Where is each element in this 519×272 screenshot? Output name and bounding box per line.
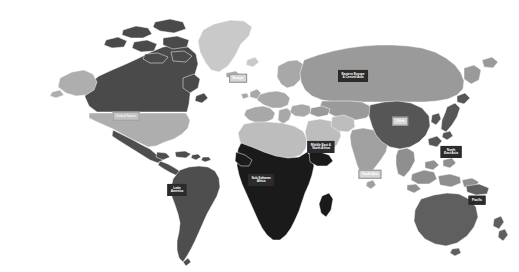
- region-sub-saharan-africa[interactable]: [235, 143, 333, 240]
- map-label-line: China: [396, 119, 405, 123]
- map-label-china[interactable]: China: [392, 117, 408, 126]
- map-label-line: East Asia: [444, 152, 458, 156]
- map-label-ssa[interactable]: Sub-SaharanAfrica: [248, 174, 274, 186]
- map-label-europe[interactable]: Europe: [229, 74, 247, 83]
- map-label-mena[interactable]: Middle East &North Africa: [307, 141, 334, 153]
- map-label-latin-america[interactable]: LatinAmerica: [167, 184, 186, 196]
- map-label-south-asia[interactable]: South Asia: [358, 170, 381, 179]
- region-latin-america[interactable]: [112, 130, 220, 266]
- map-label-line: North Africa: [312, 147, 330, 151]
- map-label-line: United States: [116, 114, 136, 118]
- map-label-eeca[interactable]: Eastern Europe& Central Asia: [338, 70, 368, 82]
- region-europe[interactable]: [226, 60, 311, 124]
- map-label-line: South Asia: [362, 172, 378, 176]
- world-map-svg: [0, 0, 519, 272]
- map-label-nea[interactable]: NorthEast Asia: [441, 146, 462, 158]
- region-canada[interactable]: [85, 19, 208, 112]
- map-label-line: & Central Asia: [342, 76, 363, 80]
- map-label-line: America: [171, 190, 183, 194]
- map-label-line: Pacific: [472, 198, 482, 202]
- map-label-united-states[interactable]: United States: [113, 112, 140, 121]
- region-pacific[interactable]: [414, 184, 508, 256]
- world-map: United StatesLatinAmericaEuropeEastern E…: [0, 0, 519, 272]
- map-label-pacific[interactable]: Pacific: [469, 196, 486, 205]
- region-greenland[interactable]: [198, 20, 259, 72]
- map-label-line: Africa: [257, 180, 266, 184]
- map-label-line: Europe: [233, 76, 244, 80]
